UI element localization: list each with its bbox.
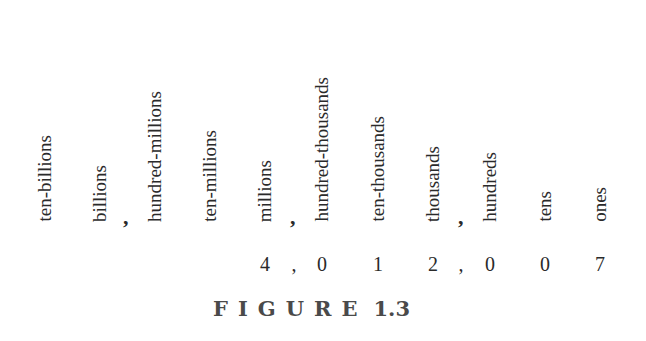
group-separator-comma: , [123, 206, 129, 228]
place-label-hundreds: hundreds [480, 152, 500, 222]
digit-ones: 7 [595, 252, 605, 276]
place-label-ten-thousands: ten-thousands [368, 116, 388, 222]
digit-tens: 0 [540, 252, 550, 276]
place-label-billions: billions [90, 165, 110, 222]
digit-millions: 4 [260, 252, 270, 276]
figure-caption: FIGURE1.3 [213, 296, 410, 321]
place-label-ten-billions: ten-billions [35, 135, 55, 222]
group-separator-comma: , [458, 206, 464, 228]
digit-ten-thousands: 1 [373, 252, 383, 276]
place-label-millions: millions [255, 160, 275, 222]
digit-thousands: 2 [428, 252, 438, 276]
place-label-tens: tens [535, 191, 555, 222]
figure-caption-number: 1.3 [373, 296, 410, 321]
figure-caption-word: FIGURE [213, 296, 367, 321]
number-comma: , [292, 252, 297, 276]
place-label-ten-millions: ten-millions [200, 130, 220, 222]
place-label-hundred-millions: hundred-millions [145, 91, 165, 222]
number-comma: , [459, 252, 464, 276]
place-label-hundred-thousands: hundred-thousands [312, 77, 332, 222]
group-separator-comma: , [290, 206, 296, 228]
place-label-thousands: thousands [423, 146, 443, 222]
place-value-figure: ten-billions billions , hundred-millions… [0, 0, 646, 341]
digit-hundred-thousands: 0 [317, 252, 327, 276]
digit-hundreds: 0 [485, 252, 495, 276]
place-label-ones: ones [590, 187, 610, 222]
